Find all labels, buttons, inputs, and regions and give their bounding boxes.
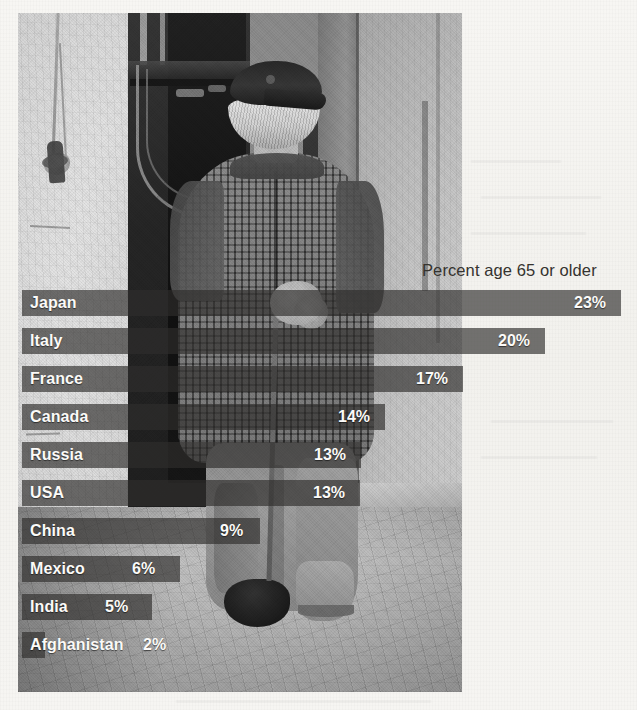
bar-category-label: Italy	[30, 328, 63, 354]
bar-row: China9%	[22, 518, 260, 544]
bar-category-label: Russia	[30, 442, 83, 468]
bar-category-label: Japan	[30, 290, 77, 316]
bar-category-label: Afghanistan	[30, 632, 124, 658]
bar-value-label: 6%	[132, 556, 155, 582]
bar-rect	[22, 366, 463, 392]
bar-value-label: 14%	[338, 404, 370, 430]
bar-row: Italy20%	[22, 328, 545, 354]
bar-category-label: Mexico	[30, 556, 85, 582]
bar-rect	[22, 328, 545, 354]
bar-row: Russia13%	[22, 442, 361, 468]
bar-row: Afghanistan2%	[22, 632, 222, 658]
bar-value-label: 13%	[313, 480, 345, 506]
bar-category-label: Canada	[30, 404, 88, 430]
bar-row: India5%	[22, 594, 222, 620]
bar-row: France17%	[22, 366, 463, 392]
bar-value-label: 9%	[220, 518, 243, 544]
bar-row: Mexico6%	[22, 556, 222, 582]
chart-axis-title: Percent age 65 or older	[422, 261, 597, 280]
bar-row: Japan23%	[22, 290, 621, 316]
bar-rect	[22, 290, 621, 316]
figure-page: Percent age 65 or older Japan23%Italy20%…	[0, 0, 637, 710]
bar-category-label: France	[30, 366, 83, 392]
bar-category-label: USA	[30, 480, 64, 506]
bar-rect	[22, 480, 360, 506]
bar-category-label: China	[30, 518, 75, 544]
bar-category-label: India	[30, 594, 68, 620]
bar-value-label: 13%	[314, 442, 346, 468]
bar-chart: Percent age 65 or older Japan23%Italy20%…	[0, 0, 637, 710]
bar-row: USA13%	[22, 480, 360, 506]
bar-row: Canada14%	[22, 404, 385, 430]
bar-value-label: 5%	[105, 594, 128, 620]
bar-value-label: 17%	[416, 366, 448, 392]
bar-value-label: 2%	[143, 632, 166, 658]
bar-value-label: 23%	[574, 290, 606, 316]
bar-value-label: 20%	[498, 328, 530, 354]
